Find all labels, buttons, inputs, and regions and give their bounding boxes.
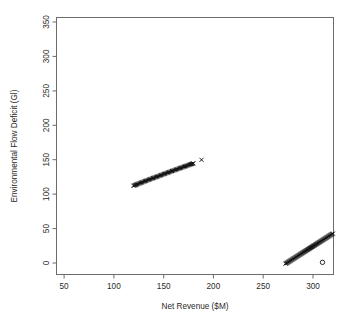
y-tick-label-100: 100 (42, 187, 51, 201)
x-tick-label-100: 100 (107, 282, 121, 291)
y-tick-label-350: 350 (42, 15, 51, 29)
y-tick-label-300: 300 (42, 49, 51, 63)
scatter-plot-figure: 0 50 100 150 200 250 300 350 50 100 150 … (0, 0, 348, 325)
y-tick-label-50: 50 (42, 224, 51, 234)
x-axis-title: Net Revenue ($M) (162, 302, 229, 311)
y-tick-label-250: 250 (42, 84, 51, 98)
x-tick-label-50: 50 (60, 282, 70, 291)
x-tick-label-200: 200 (207, 282, 221, 291)
y-tick-label-200: 200 (42, 118, 51, 132)
x-tick-label-300: 300 (306, 282, 320, 291)
y-tick-label-150: 150 (42, 152, 51, 166)
y-tick-label-0: 0 (42, 260, 51, 265)
y-axis-title: Environmental Flow Deficit (Gl) (10, 89, 19, 202)
figure-background (0, 0, 348, 325)
x-tick-label-150: 150 (157, 282, 171, 291)
x-tick-label-250: 250 (256, 282, 270, 291)
